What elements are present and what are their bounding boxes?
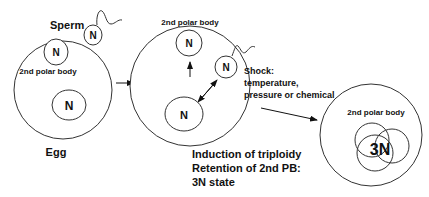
triploidy-induction-diagram: N 2nd polar body N Egg N Sperm 2nd polar… — [0, 0, 429, 197]
caption-line-3: 3N state — [192, 176, 235, 188]
shock-line-2: temperature, — [244, 78, 299, 88]
stage3-nucleus-label: 3N — [370, 141, 390, 158]
shock-line-3: pressure or chemical — [244, 90, 335, 100]
arrow-stage2-to-stage3 — [261, 108, 317, 120]
polar-body-nucleus-label: N — [52, 47, 59, 58]
stage3-polar-body-label: 2nd polar body — [347, 108, 405, 117]
stage3-triploid-egg: 2nd polar body 3N — [320, 84, 422, 186]
egg-label: Egg — [46, 146, 67, 158]
stage2-sperm-nucleus-label: N — [222, 62, 229, 73]
egg-nucleus-label: N — [65, 99, 74, 113]
stage1-egg: N 2nd polar body N Egg N Sperm — [14, 11, 122, 158]
stage2-polar-body-label: 2nd polar body — [161, 18, 219, 27]
shock-line-1: Shock: — [244, 66, 274, 76]
stage2-fertilized-egg: 2nd polar body N N N Shock: temperature,… — [130, 18, 335, 188]
caption-line-2: Retention of 2nd PB: — [192, 162, 301, 174]
stage2-egg-nucleus-label: N — [180, 109, 188, 121]
sperm-tail — [97, 11, 122, 25]
caption-line-1: Induction of triploidy — [192, 148, 302, 160]
sperm-nucleus-label: N — [89, 30, 96, 41]
sperm-label: Sperm — [50, 19, 84, 31]
polar-body-label: 2nd polar body — [19, 67, 77, 76]
stage2-polar-body-nucleus: N — [185, 38, 192, 49]
